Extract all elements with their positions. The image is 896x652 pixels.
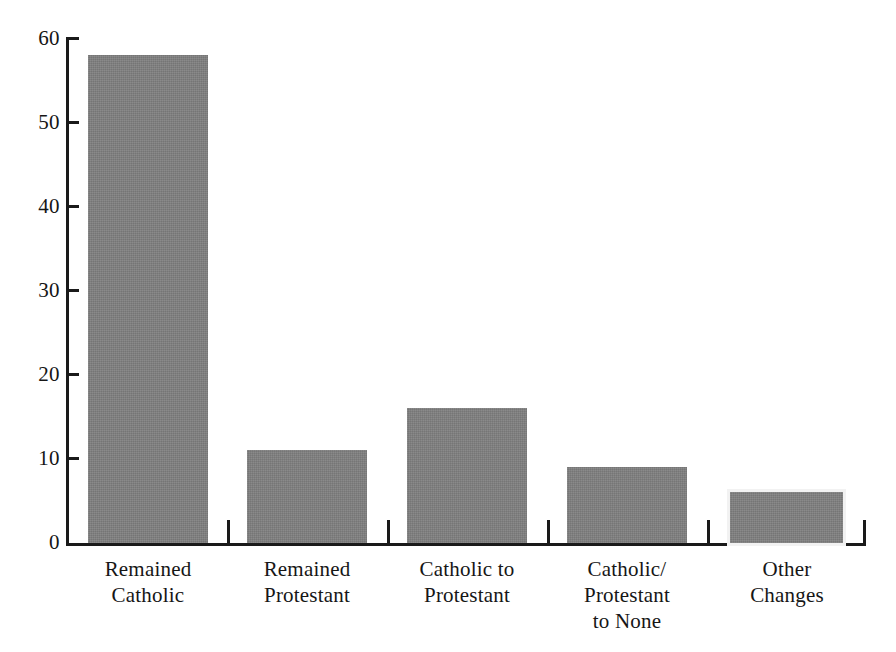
x-tick-mark-3: [547, 520, 550, 543]
y-tick-mark-20: [66, 373, 79, 376]
y-tick-mark-50: [66, 121, 79, 124]
x-tick-mark-4: [707, 520, 710, 543]
x-tick-mark-2: [387, 520, 390, 543]
bar-other-changes: [730, 492, 843, 543]
y-tick-label-40: 40: [14, 196, 60, 217]
bar-catholic-to-protestant: [407, 408, 527, 543]
x-category-label-line: Changes: [707, 582, 867, 608]
bar-chart: 60 50 40 30 20 10 0 Remained Catholic Re…: [0, 0, 896, 652]
x-tick-mark-1: [227, 520, 230, 543]
plot-area: 60 50 40 30 20 10 0 Remained Catholic Re…: [0, 0, 896, 652]
bar-catholic-protestant-to-none: [567, 467, 687, 543]
x-category-label-line: Protestant: [387, 582, 547, 608]
y-tick-mark-60: [66, 37, 79, 40]
y-tick-mark-40: [66, 205, 79, 208]
x-category-label-line: Catholic: [68, 582, 228, 608]
y-tick-label-0: 0: [14, 532, 60, 553]
y-tick-label-20: 20: [14, 364, 60, 385]
x-tick-mark-end: [863, 520, 866, 543]
x-category-label-line: to None: [547, 608, 707, 634]
x-category-label-catholic-protestant-to-none: Catholic/ Protestant to None: [547, 556, 707, 634]
x-category-label-line: Catholic to: [387, 556, 547, 582]
x-category-label-line: Remained: [68, 556, 228, 582]
x-category-label-line: Remained: [227, 556, 387, 582]
x-category-label-line: Protestant: [227, 582, 387, 608]
x-category-label-catholic-to-protestant: Catholic to Protestant: [387, 556, 547, 608]
y-tick-label-10: 10: [14, 448, 60, 469]
x-axis-line: [66, 543, 866, 546]
x-category-label-line: Catholic/: [547, 556, 707, 582]
x-category-label-other-changes: Other Changes: [707, 556, 867, 608]
y-tick-label-60: 60: [14, 28, 60, 49]
x-category-label-line: Other: [707, 556, 867, 582]
x-category-label-line: Protestant: [547, 582, 707, 608]
y-tick-label-50: 50: [14, 112, 60, 133]
bar-remained-catholic: [88, 55, 208, 543]
y-tick-mark-30: [66, 289, 79, 292]
x-category-label-remained-catholic: Remained Catholic: [68, 556, 228, 608]
x-category-label-remained-protestant: Remained Protestant: [227, 556, 387, 608]
y-tick-mark-10: [66, 457, 79, 460]
bar-remained-protestant: [247, 450, 367, 543]
y-tick-label-30: 30: [14, 280, 60, 301]
